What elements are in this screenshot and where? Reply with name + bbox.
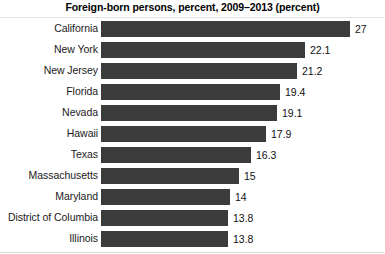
bar-value-label: 19.1 bbox=[282, 107, 302, 119]
bar-value-label: 15 bbox=[244, 170, 256, 182]
bar-value-label: 19.4 bbox=[285, 86, 305, 98]
bar-row: New York22.1 bbox=[0, 40, 385, 61]
bar-chart: Foreign-born persons, percent, 2009–2013… bbox=[0, 0, 385, 254]
bar-track: 19.1 bbox=[101, 105, 385, 121]
bar-row: California27 bbox=[0, 19, 385, 40]
bar-row: New Jersey21.2 bbox=[0, 61, 385, 82]
bar-track: 17.9 bbox=[101, 126, 385, 142]
bar-rows: California27New York22.1New Jersey21.2Fl… bbox=[0, 19, 385, 250]
bar bbox=[101, 105, 277, 121]
chart-title: Foreign-born persons, percent, 2009–2013… bbox=[0, 1, 385, 13]
bar-value-label: 21.2 bbox=[302, 65, 322, 77]
category-label: Nevada bbox=[0, 106, 98, 118]
category-label: District of Columbia bbox=[0, 211, 98, 223]
bar-value-label: 17.9 bbox=[271, 128, 291, 140]
bar-row: District of Columbia13.8 bbox=[0, 208, 385, 229]
category-label: Massachusetts bbox=[0, 169, 98, 181]
bar-row: Maryland14 bbox=[0, 187, 385, 208]
bar bbox=[101, 231, 228, 247]
bar-track: 27 bbox=[101, 21, 385, 37]
bar-row: Illinois13.8 bbox=[0, 229, 385, 250]
bar bbox=[101, 63, 297, 79]
category-label: Hawaii bbox=[0, 127, 98, 139]
bar-value-label: 16.3 bbox=[256, 149, 276, 161]
bar-track: 14 bbox=[101, 189, 385, 205]
bar-value-label: 13.8 bbox=[233, 233, 253, 245]
bar-track: 13.8 bbox=[101, 231, 385, 247]
bar bbox=[101, 168, 239, 184]
bar-value-label: 14 bbox=[235, 191, 247, 203]
bar-row: Hawaii17.9 bbox=[0, 124, 385, 145]
bar bbox=[101, 210, 228, 226]
bar-value-label: 13.8 bbox=[233, 212, 253, 224]
bar-track: 21.2 bbox=[101, 63, 385, 79]
category-label: New Jersey bbox=[0, 64, 98, 76]
bar-value-label: 22.1 bbox=[310, 44, 330, 56]
category-label: California bbox=[0, 22, 98, 34]
category-label: Texas bbox=[0, 148, 98, 160]
category-label: Florida bbox=[0, 85, 98, 97]
bar-row: Massachusetts15 bbox=[0, 166, 385, 187]
bar bbox=[101, 84, 280, 100]
bar bbox=[101, 42, 305, 58]
bar bbox=[101, 126, 266, 142]
bar-row: Nevada19.1 bbox=[0, 103, 385, 124]
bar-value-label: 27 bbox=[355, 23, 367, 35]
bar-track: 16.3 bbox=[101, 147, 385, 163]
bar-row: Texas16.3 bbox=[0, 145, 385, 166]
bar-track: 15 bbox=[101, 168, 385, 184]
category-label: Maryland bbox=[0, 190, 98, 202]
category-label: Illinois bbox=[0, 232, 98, 244]
bar bbox=[101, 21, 350, 37]
category-label: New York bbox=[0, 43, 98, 55]
bar-track: 22.1 bbox=[101, 42, 385, 58]
bar-row: Florida19.4 bbox=[0, 82, 385, 103]
bar-track: 19.4 bbox=[101, 84, 385, 100]
bar bbox=[101, 147, 251, 163]
bar bbox=[101, 189, 230, 205]
bar-track: 13.8 bbox=[101, 210, 385, 226]
